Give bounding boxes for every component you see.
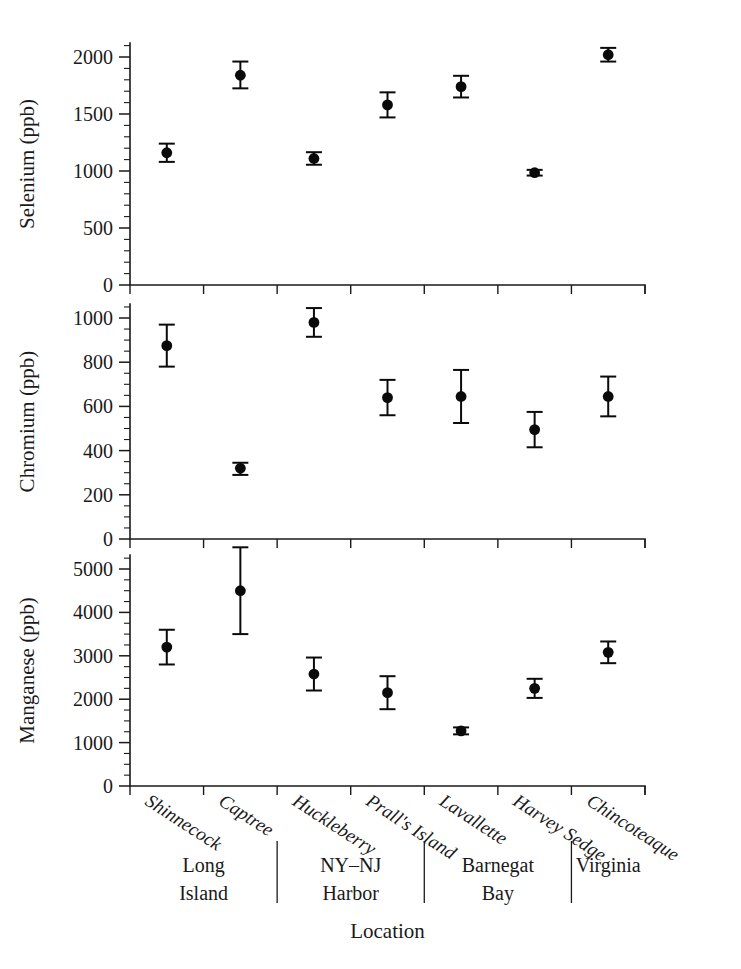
data-marker xyxy=(529,683,540,694)
data-marker xyxy=(603,647,614,658)
data-marker xyxy=(309,153,320,164)
data-point-top-4[interactable]: Lavallette: 1740 xyxy=(453,76,469,98)
y-tick-label-middle-1: 200 xyxy=(83,484,113,506)
data-point-bottom-6[interactable]: Chincoteaque: 3080 xyxy=(600,641,616,663)
y-tick-label-middle-4: 800 xyxy=(83,351,113,373)
data-marker xyxy=(456,391,467,402)
y-tick-label-bottom-2: 2000 xyxy=(73,688,113,710)
data-point-middle-2[interactable]: Huckleberry: 980 xyxy=(306,308,322,337)
data-point-top-1[interactable]: Captree: 1840 xyxy=(232,62,248,89)
data-point-middle-6[interactable]: Chincoteaque: 645 xyxy=(600,377,616,417)
y-tick-label-bottom-3: 3000 xyxy=(73,645,113,667)
y-axis-title-top: Selenium (ppb) xyxy=(15,99,39,229)
panel-bottom: 010002000300040005000Shinnecock: 3200Cap… xyxy=(15,547,645,797)
data-marker xyxy=(603,391,614,402)
y-tick-label-middle-3: 600 xyxy=(83,395,113,417)
y-tick-label-top-1: 500 xyxy=(83,217,113,239)
data-marker xyxy=(161,340,172,351)
data-point-middle-5[interactable]: Harvey Sedge: 495 xyxy=(527,412,543,447)
data-point-bottom-1[interactable]: Captree: 4500 xyxy=(232,547,248,634)
data-point-top-0[interactable]: Shinnecock: 1160 xyxy=(159,144,175,162)
x-category-label-0: Shinnecock xyxy=(142,790,226,855)
axis-spine-bottom xyxy=(130,555,645,786)
data-marker xyxy=(529,167,540,178)
data-marker xyxy=(456,81,467,92)
data-marker xyxy=(309,317,320,328)
data-point-bottom-2[interactable]: Huckleberry: 2580 xyxy=(306,658,322,691)
axis-spine-top xyxy=(130,43,645,285)
group-label-line2-0: Island xyxy=(179,882,228,904)
multi-panel-error-bar-chart: 0500100015002000Shinnecock: 1160Captree:… xyxy=(0,0,741,969)
data-marker xyxy=(161,642,172,653)
y-tick-label-bottom-5: 5000 xyxy=(73,558,113,580)
data-point-top-2[interactable]: Huckleberry: 1110 xyxy=(306,152,322,165)
y-tick-label-top-4: 2000 xyxy=(73,46,113,68)
data-point-bottom-5[interactable]: Harvey Sedge: 2250 xyxy=(527,679,543,698)
group-label-line2-2: Bay xyxy=(482,882,514,905)
data-marker xyxy=(161,147,172,158)
x-axis-title: Location xyxy=(350,919,425,943)
data-marker xyxy=(603,49,614,60)
y-tick-label-bottom-0: 0 xyxy=(103,775,113,797)
data-point-top-5[interactable]: Harvey Sedge: 985 xyxy=(527,167,543,178)
group-label-line1-2: Barnegat xyxy=(462,854,535,877)
data-marker xyxy=(382,687,393,698)
data-point-middle-4[interactable]: Lavallette: 645 xyxy=(453,370,469,423)
y-tick-label-middle-0: 0 xyxy=(103,528,113,550)
y-tick-label-top-0: 0 xyxy=(103,274,113,296)
panel-middle: 02004006008001000Shinnecock: 875Captree:… xyxy=(15,304,645,550)
y-axis-title-bottom: Manganese (ppb) xyxy=(15,597,39,743)
data-point-top-6[interactable]: Chincoteaque: 2020 xyxy=(600,48,616,62)
data-marker xyxy=(529,424,540,435)
data-point-bottom-3[interactable]: Prall's Island: 2150 xyxy=(380,676,396,709)
data-point-bottom-0[interactable]: Shinnecock: 3200 xyxy=(159,630,175,665)
data-marker xyxy=(382,99,393,110)
group-label-line1-3: Virginia xyxy=(576,854,641,877)
data-marker xyxy=(382,392,393,403)
y-tick-label-middle-2: 400 xyxy=(83,440,113,462)
axis-spine-middle xyxy=(130,304,645,539)
y-tick-label-bottom-1: 1000 xyxy=(73,732,113,754)
y-tick-label-top-2: 1000 xyxy=(73,160,113,182)
data-marker xyxy=(309,669,320,680)
y-tick-label-bottom-4: 4000 xyxy=(73,601,113,623)
group-label-line1-1: NY–NJ xyxy=(320,854,381,876)
data-marker xyxy=(235,70,246,81)
y-axis-title-middle: Chromium (ppb) xyxy=(15,351,39,493)
panel-top: 0500100015002000Shinnecock: 1160Captree:… xyxy=(15,43,645,296)
y-tick-label-top-3: 1500 xyxy=(73,103,113,125)
y-tick-label-middle-5: 1000 xyxy=(73,307,113,329)
figure-container: 0500100015002000Shinnecock: 1160Captree:… xyxy=(0,0,741,969)
data-point-top-3[interactable]: Prall's Island: 1580 xyxy=(380,92,396,117)
data-point-middle-0[interactable]: Shinnecock: 875 xyxy=(159,325,175,367)
data-marker xyxy=(235,585,246,596)
data-point-middle-3[interactable]: Prall's Island: 640 xyxy=(380,380,396,415)
data-point-bottom-4[interactable]: Lavallette: 1270 xyxy=(453,725,469,736)
group-label-line1-0: Long xyxy=(182,854,224,877)
group-label-line2-1: Harbor xyxy=(322,882,379,904)
x-category-label-1: Captree xyxy=(215,790,277,841)
data-marker xyxy=(456,725,467,736)
data-marker xyxy=(235,463,246,474)
data-point-middle-1[interactable]: Captree: 320 xyxy=(232,463,248,475)
